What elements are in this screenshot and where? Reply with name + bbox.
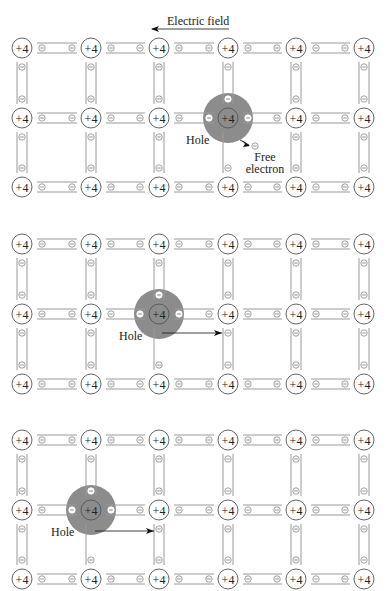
atom-charge-label: +4	[153, 238, 166, 252]
atom-charge-label: +4	[16, 308, 29, 322]
atom-charge-label: +4	[153, 42, 166, 56]
atom-charge-label: +4	[358, 504, 371, 518]
atom-charge-label: +4	[358, 238, 371, 252]
atom-charge-label: +4	[85, 181, 98, 195]
atom-charge-label: +4	[290, 308, 303, 322]
atom-charge-label: +4	[222, 434, 235, 448]
atom-charge-label: +4	[222, 308, 235, 322]
atom-charge-label: +4	[85, 504, 98, 518]
hole-label-panel-1: Hole	[186, 134, 209, 146]
atom-charge-label: +4	[16, 378, 29, 392]
atom-charge-label: +4	[290, 42, 303, 56]
free-electron-label-line2: electron	[240, 163, 290, 175]
atom-charge-label: +4	[290, 504, 303, 518]
lattice-diagram: +4+4+4+4+4+4+4+4+4+4+4+4+4+4+4+4+4+4+4+4…	[0, 0, 390, 591]
atom-charge-label: +4	[358, 42, 371, 56]
free-electron-label: Free electron	[240, 151, 290, 175]
atom-charge-label: +4	[85, 238, 98, 252]
atom-charge-label: +4	[290, 573, 303, 587]
atom-charge-label: +4	[85, 308, 98, 322]
atom-charge-label: +4	[358, 573, 371, 587]
atom-charge-label: +4	[222, 238, 235, 252]
atom-charge-label: +4	[153, 434, 166, 448]
atom-charge-label: +4	[85, 573, 98, 587]
atom-charge-label: +4	[85, 434, 98, 448]
atom-charge-label: +4	[16, 112, 29, 126]
atom-charge-label: +4	[153, 378, 166, 392]
atom-charge-label: +4	[222, 378, 235, 392]
atom-charge-label: +4	[85, 42, 98, 56]
atom-charge-label: +4	[222, 112, 235, 126]
atom-charge-label: +4	[16, 238, 29, 252]
atom-charge-label: +4	[153, 112, 166, 126]
atom-charge-label: +4	[16, 573, 29, 587]
atom-charge-label: +4	[16, 434, 29, 448]
atom-charge-label: +4	[16, 181, 29, 195]
atom-charge-label: +4	[153, 573, 166, 587]
atom-charge-label: +4	[290, 378, 303, 392]
atom-charge-label: +4	[290, 238, 303, 252]
atom-charge-label: +4	[153, 181, 166, 195]
hole-label-panel-2: Hole	[119, 330, 142, 342]
atom-charge-label: +4	[222, 573, 235, 587]
atom-charge-label: +4	[290, 181, 303, 195]
atom-charge-label: +4	[290, 434, 303, 448]
atom-charge-label: +4	[358, 378, 371, 392]
atom-charge-label: +4	[222, 181, 235, 195]
hole-label-panel-3: Hole	[51, 526, 74, 538]
atom-charge-label: +4	[222, 504, 235, 518]
atom-charge-label: +4	[153, 504, 166, 518]
atom-charge-label: +4	[358, 434, 371, 448]
atom-charge-label: +4	[358, 308, 371, 322]
atom-charge-label: +4	[358, 112, 371, 126]
arrowhead-icon	[242, 140, 250, 147]
atom-charge-label: +4	[16, 42, 29, 56]
atom-charge-label: +4	[290, 112, 303, 126]
atom-charge-label: +4	[358, 181, 371, 195]
electric-field-label: Electric field	[167, 15, 229, 27]
diagram-stage: +4+4+4+4+4+4+4+4+4+4+4+4+4+4+4+4+4+4+4+4…	[0, 0, 390, 591]
atom-charge-label: +4	[16, 504, 29, 518]
atom-charge-label: +4	[222, 42, 235, 56]
atom-charge-label: +4	[85, 112, 98, 126]
atom-charge-label: +4	[153, 308, 166, 322]
atom-charge-label: +4	[85, 378, 98, 392]
